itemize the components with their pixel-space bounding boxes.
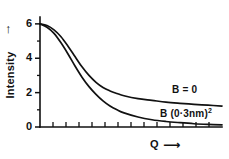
y-axis-title: Intensity xyxy=(4,35,16,115)
y-axis-arrow-icon: ↑ xyxy=(5,22,12,35)
chart-plot xyxy=(0,0,229,159)
curve-label-b-zero: B = 0 xyxy=(172,84,197,95)
y-tick-label: 6 xyxy=(20,18,32,29)
curve-label-b-value-text: B (0·3nm) xyxy=(160,108,208,119)
curve-label-b-value: B (0·3nm)2 xyxy=(160,107,212,119)
y-tick-label: 0 xyxy=(20,121,32,132)
x-axis-title: Q xyxy=(150,139,159,150)
y-tick-label: 2 xyxy=(20,87,32,98)
y-tick-label: 4 xyxy=(20,52,32,63)
figure-container: 6420 Intensity ↑ Q ⟶ B = 0 B (0·3nm)2 xyxy=(0,0,229,159)
y-axis-title-group: Intensity xyxy=(3,36,17,116)
curve-label-b-value-exponent: 2 xyxy=(208,107,212,114)
x-axis-arrow-icon: ⟶ xyxy=(163,139,180,151)
